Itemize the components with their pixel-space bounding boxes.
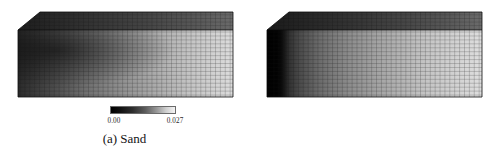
mesh-foundation-tire-chips [267, 30, 482, 97]
mesh-embankment-sand [18, 10, 233, 32]
figure-two-panel-mesh: 0.00 0.027 (a) Sand [0, 0, 498, 155]
mesh-embankment-tire-chips [267, 10, 482, 32]
mesh-plot-sand [0, 0, 249, 104]
panel-sand: 0.00 0.027 (a) Sand [0, 0, 249, 155]
panel-tire-chips: 0.00 0.15 (b) Tire chips [249, 0, 498, 155]
colorbar-sand [110, 106, 176, 114]
colorbar-min-label-sand: 0.00 [98, 117, 130, 125]
mesh-svg-tire-chips [249, 0, 498, 104]
mesh-svg-sand [0, 0, 249, 104]
panel-caption-sand: (a) Sand [0, 131, 249, 147]
mesh-plot-tire-chips [249, 0, 498, 104]
colorbar-max-label-sand: 0.027 [157, 117, 193, 125]
mesh-foundation-sand [18, 30, 233, 97]
